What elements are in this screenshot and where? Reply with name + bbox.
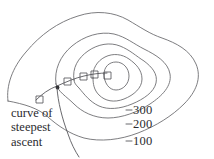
contour-label-200: 200 bbox=[133, 118, 152, 131]
contour-map-figure: 300 200 100 curve of steepest ascent bbox=[0, 0, 214, 159]
contour-line-inner bbox=[93, 55, 142, 102]
annotation-line-2: steepest bbox=[11, 120, 52, 134]
contour-line-300 bbox=[74, 44, 157, 109]
contour-label-100: 100 bbox=[133, 135, 152, 148]
curve-of-steepest-ascent bbox=[36, 73, 107, 100]
contour-line-200 bbox=[56, 33, 171, 118]
steepest-ascent-annotation: curve of steepest ascent bbox=[11, 106, 52, 149]
contour-line-peak bbox=[104, 62, 129, 90]
annotation-line-3: ascent bbox=[11, 135, 52, 149]
annotation-leader-group bbox=[56, 86, 79, 157]
contour-label-300: 300 bbox=[133, 104, 152, 117]
annotation-line-1: curve of bbox=[11, 106, 52, 120]
